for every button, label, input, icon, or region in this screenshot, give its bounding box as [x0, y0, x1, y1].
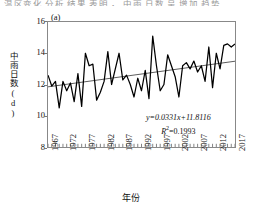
x-tick-label: 2012	[219, 134, 228, 151]
x-tick-label: 1987	[125, 134, 134, 151]
y-tick-label: 14	[19, 48, 45, 56]
x-tick-label: 1982	[107, 134, 116, 151]
x-tick-label: 2017	[238, 134, 247, 151]
x-tick-label: 1977	[88, 134, 97, 151]
y-axis: 16 14 12 10 8	[17, 0, 45, 213]
r-value: =0.1993	[169, 127, 196, 136]
y-tick-label: 16	[19, 17, 45, 25]
y-tick-label: 10	[19, 111, 45, 119]
y-tick-label: 8	[19, 143, 45, 151]
y-tick-label: 12	[19, 80, 45, 88]
y-tick-mark	[44, 148, 47, 149]
data-series-line	[48, 36, 235, 108]
y-axis-title: 中雨日数(d)	[6, 52, 18, 118]
x-tick-label: 1972	[69, 134, 78, 151]
x-axis-title: 年份	[0, 191, 261, 204]
r-squared-text: R2=0.1993	[146, 123, 211, 137]
figure-panel-a: 温区变化 分析 结果 表明 ， 中雨 日数 呈 增加 趋势 (a) 16 14 …	[0, 0, 261, 213]
equation-text: y=0.0331x+11.8116	[146, 113, 211, 122]
trend-equation-annotation: y=0.0331x+11.8116 R2=0.1993	[146, 112, 211, 137]
x-tick-label: 1967	[51, 134, 60, 151]
